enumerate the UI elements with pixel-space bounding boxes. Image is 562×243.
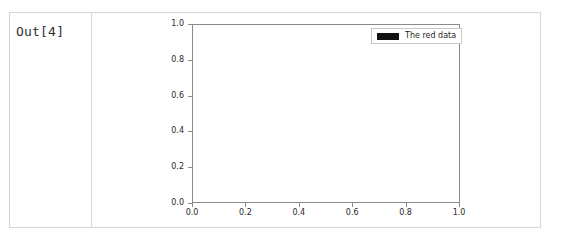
x-tick-mark — [352, 203, 353, 207]
x-tick-label: 0.0 — [172, 209, 212, 217]
x-tick-mark — [406, 203, 407, 207]
x-tick-label: 0.2 — [225, 209, 265, 217]
x-tick-mark — [459, 203, 460, 207]
y-tick-label: 1.0 — [94, 20, 184, 28]
y-tick-label: 0.8 — [94, 56, 184, 64]
x-tick-label: 1.0 — [439, 209, 479, 217]
y-tick-mark — [188, 24, 192, 25]
notebook-output-cell: Out[4] 1.0 0.8 0.6 0.4 0.2 0.0 — [9, 12, 541, 228]
x-tick-mark — [299, 203, 300, 207]
legend-entry-label: The red data — [405, 32, 456, 40]
output-content-area: 1.0 0.8 0.6 0.4 0.2 0.0 0.0 0.2 0.4 0.6 … — [92, 13, 540, 227]
x-tick-label: 0.8 — [386, 209, 426, 217]
legend-swatch-icon — [377, 33, 399, 40]
matplotlib-figure: 1.0 0.8 0.6 0.4 0.2 0.0 0.0 0.2 0.4 0.6 … — [92, 13, 540, 227]
x-tick-label: 0.4 — [279, 209, 319, 217]
y-tick-label: 0.0 — [94, 199, 184, 207]
y-tick-mark — [188, 96, 192, 97]
y-tick-mark — [188, 60, 192, 61]
y-tick-mark — [188, 167, 192, 168]
x-tick-mark — [245, 203, 246, 207]
output-prompt-label: Out[4] — [16, 24, 64, 39]
x-tick-label: 0.6 — [332, 209, 372, 217]
plot-axes-frame — [192, 24, 460, 203]
plot-legend: The red data — [371, 28, 462, 44]
output-prompt-gutter: Out[4] — [10, 13, 92, 227]
x-tick-mark — [192, 203, 193, 207]
y-tick-label: 0.6 — [94, 92, 184, 100]
y-tick-label: 0.2 — [94, 163, 184, 171]
y-tick-mark — [188, 131, 192, 132]
y-tick-label: 0.4 — [94, 127, 184, 135]
